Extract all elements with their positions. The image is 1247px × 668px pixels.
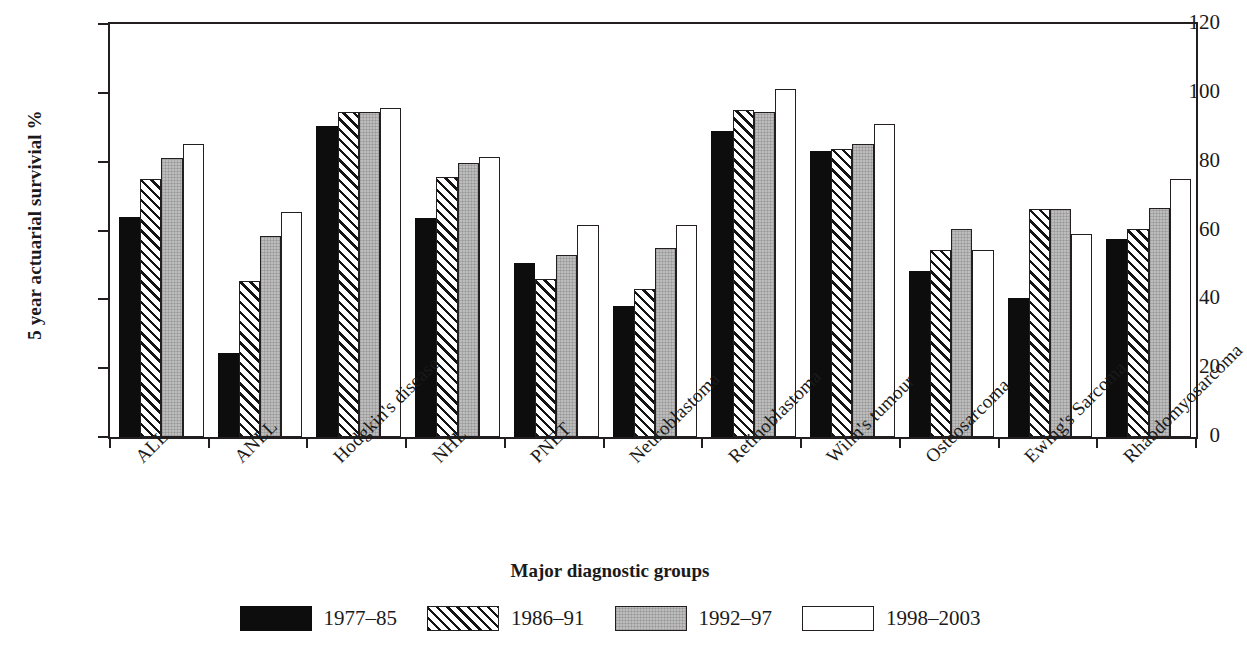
x-tick xyxy=(1195,439,1197,448)
white-swatch xyxy=(802,606,874,631)
gray-swatch xyxy=(615,606,687,631)
chart-legend: 1977–851986–911992–971998–2003 xyxy=(0,606,1220,631)
bar[interactable] xyxy=(458,163,479,437)
x-tick xyxy=(701,439,703,448)
x-tick xyxy=(800,439,802,448)
bar[interactable] xyxy=(577,225,598,437)
bar-group xyxy=(1008,24,1093,437)
bar-group xyxy=(810,24,895,437)
y-tick-80 xyxy=(98,161,108,163)
bar[interactable] xyxy=(1127,229,1148,437)
diagonal-hatch-swatch xyxy=(427,606,499,631)
bar[interactable] xyxy=(754,112,775,437)
bar-group xyxy=(711,24,796,437)
x-tick xyxy=(998,439,1000,448)
bar[interactable] xyxy=(1029,209,1050,437)
bar[interactable] xyxy=(733,110,754,437)
bar[interactable] xyxy=(183,144,204,437)
bar-group xyxy=(316,24,401,437)
x-tick xyxy=(504,439,506,448)
bar[interactable] xyxy=(1008,298,1029,437)
bar[interactable] xyxy=(1106,239,1127,437)
bar[interactable] xyxy=(930,250,951,437)
solid-black-swatch xyxy=(240,606,312,631)
y-tick-60 xyxy=(98,230,108,232)
x-tick xyxy=(1096,439,1098,448)
x-axis-title: Major diagnostic groups xyxy=(0,560,1220,582)
x-tick xyxy=(405,439,407,448)
bar[interactable] xyxy=(338,112,359,437)
bar-group xyxy=(909,24,994,437)
bar[interactable] xyxy=(831,149,852,437)
bar[interactable] xyxy=(239,281,260,437)
y-tick-120 xyxy=(98,23,108,25)
bar[interactable] xyxy=(140,179,161,437)
legend-item[interactable]: 1998–2003 xyxy=(802,606,981,631)
y-tick-20 xyxy=(98,367,108,369)
legend-item[interactable]: 1992–97 xyxy=(615,606,773,631)
bar[interactable] xyxy=(556,255,577,437)
bar[interactable] xyxy=(436,177,457,437)
bar[interactable] xyxy=(909,271,930,437)
legend-item[interactable]: 1977–85 xyxy=(240,606,398,631)
y-tick-0 xyxy=(98,436,108,438)
bar-group xyxy=(119,24,204,437)
bar[interactable] xyxy=(260,236,281,437)
legend-item[interactable]: 1986–91 xyxy=(427,606,585,631)
y-axis-title: 5 year actuarial survivial % xyxy=(24,60,46,390)
bar[interactable] xyxy=(161,158,182,437)
y-tick-40 xyxy=(98,298,108,300)
x-tick xyxy=(306,439,308,448)
bar[interactable] xyxy=(119,217,140,437)
x-tick xyxy=(208,439,210,448)
bar-group xyxy=(514,24,599,437)
bar[interactable] xyxy=(810,151,831,437)
x-tick xyxy=(899,439,901,448)
bar[interactable] xyxy=(281,212,302,437)
bar-group xyxy=(218,24,303,437)
bar[interactable] xyxy=(415,218,436,437)
legend-label: 1977–85 xyxy=(324,606,398,631)
bar[interactable] xyxy=(316,126,337,437)
y-tick-100 xyxy=(98,92,108,94)
bar[interactable] xyxy=(535,279,556,437)
bar[interactable] xyxy=(218,353,239,437)
legend-label: 1992–97 xyxy=(699,606,773,631)
bar[interactable] xyxy=(359,112,380,437)
bar[interactable] xyxy=(479,157,500,437)
bar-group xyxy=(613,24,698,437)
x-tick xyxy=(603,439,605,448)
legend-label: 1998–2003 xyxy=(886,606,981,631)
bar[interactable] xyxy=(514,263,535,437)
bar[interactable] xyxy=(852,144,873,437)
bar[interactable] xyxy=(613,306,634,437)
legend-label: 1986–91 xyxy=(511,606,585,631)
bars-layer xyxy=(110,24,1196,437)
x-tick xyxy=(109,439,111,448)
bar[interactable] xyxy=(634,289,655,437)
